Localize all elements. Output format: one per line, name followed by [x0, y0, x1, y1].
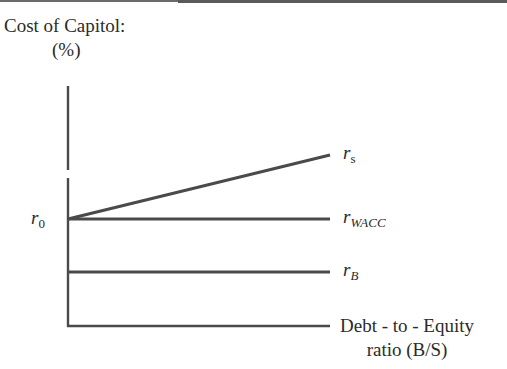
label-r0: r0: [31, 207, 45, 232]
line-r-s: [68, 155, 330, 219]
x-axis-label-line2: ratio (B/S): [340, 338, 474, 362]
x-axis-label: Debt - to - Equity ratio (B/S): [340, 314, 474, 362]
label-r-s: rs: [343, 142, 355, 167]
x-axis-label-line1: Debt - to - Equity: [340, 314, 474, 338]
label-r-wacc: rWACC: [343, 206, 386, 231]
label-r-b: rB: [343, 259, 358, 284]
